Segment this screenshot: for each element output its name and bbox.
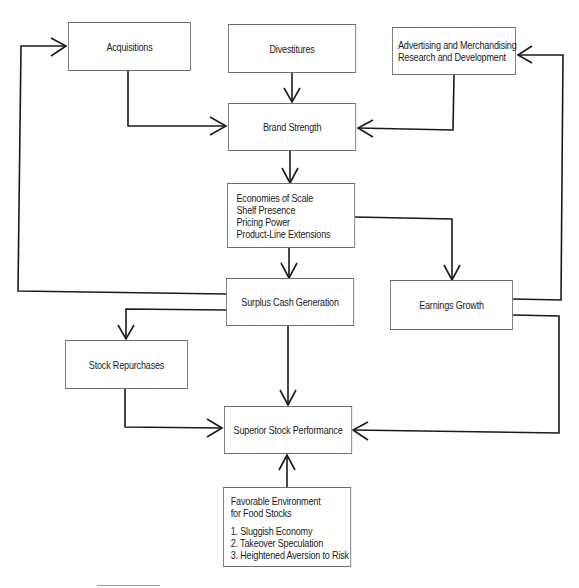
node-list-item: 2. Takeover Speculation [231, 537, 344, 549]
node-earnings-growth: Earnings Growth [390, 280, 513, 330]
node-economies: Economies of Scale Shelf Presence Pricin… [227, 183, 355, 248]
node-label: Divestitures [270, 43, 315, 55]
arrowhead-acquisitions-left [51, 38, 66, 56]
node-label-line: Pricing Power [236, 216, 345, 228]
node-label-line: Shelf Presence [236, 204, 345, 216]
node-label: Brand Strength [263, 121, 321, 133]
edge-economies-to-earnings [355, 217, 452, 280]
edge-surplus-to-acquisitions [18, 46, 226, 294]
edge-earnings-to-superior [353, 315, 559, 433]
node-favorable-environment: Favorable Environment for Food Stocks 1.… [223, 487, 351, 567]
footer-rule [97, 585, 160, 586]
edge-surplus-to-repurchases [126, 309, 226, 339]
node-label: Surplus Cash Generation [241, 296, 338, 308]
node-brand-strength: Brand Strength [228, 103, 356, 151]
node-label-line: Research and Development [398, 51, 516, 63]
node-title-line: for Food Stocks [231, 507, 344, 519]
node-advertising-research: Advertising and Merchandising Research a… [392, 27, 516, 75]
edge-earnings-to-advertising [513, 55, 563, 300]
node-list-item: 1. Sluggish Economy [231, 525, 344, 537]
node-divestitures: Divestitures [228, 24, 356, 73]
edge-repurchases-to-superior [125, 388, 222, 428]
node-list-item: 3. Heightened Aversion to Risk [231, 549, 344, 561]
arrowhead-superior-right [353, 422, 368, 440]
node-superior-stock-performance: Superior Stock Performance [224, 406, 352, 454]
node-label: Stock Repurchases [89, 359, 164, 371]
node-label-line: Advertising and Merchandising [398, 39, 516, 51]
node-label-line: Product-Line Extensions [236, 228, 345, 240]
node-stock-repurchases: Stock Repurchases [65, 340, 188, 389]
node-surplus-cash: Surplus Cash Generation [226, 278, 354, 326]
node-label: Superior Stock Performance [234, 424, 343, 436]
node-acquisitions: Acquisitions [68, 22, 191, 71]
edge-advertising-to-brand [358, 75, 454, 130]
node-label: Acquisitions [106, 41, 152, 53]
node-label-line: Economies of Scale [236, 192, 345, 204]
node-title-line: Favorable Environment [231, 495, 344, 507]
node-label: Earnings Growth [419, 299, 484, 311]
